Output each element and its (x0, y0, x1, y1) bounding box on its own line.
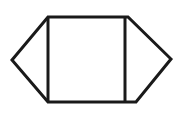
hexagon-diagram (0, 0, 183, 113)
figure-canvas (0, 0, 183, 113)
